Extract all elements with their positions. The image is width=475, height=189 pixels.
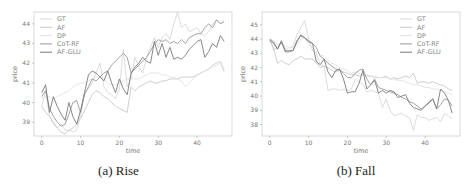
legend-label: GT	[417, 15, 426, 23]
x-tick-label: 10	[77, 139, 85, 146]
legend-label: DP	[57, 32, 66, 40]
line-chart-fall: 0102030403839404142434445timepriceGTAFDP…	[237, 0, 475, 160]
y-tick-label: 43	[250, 49, 258, 56]
x-tick-label: 30	[154, 139, 162, 146]
y-tick-label: 45	[250, 21, 258, 28]
y-tick-label: 44	[22, 20, 30, 27]
x-tick-label: 40	[421, 139, 429, 146]
y-tick-label: 42	[250, 64, 258, 71]
legend-label: AF	[57, 24, 65, 32]
x-tick-label: 40	[193, 139, 201, 146]
chart-panel-rise: 010203040394041424344timepriceGTAFDPCoT-…	[0, 0, 237, 189]
x-tick-label: 20	[344, 139, 352, 146]
caption-fall: (b) Fall	[237, 163, 475, 179]
legend-label: DP	[417, 32, 426, 40]
legend-label: CoT-RF	[57, 40, 80, 48]
legend-label: CoT-RF	[417, 40, 440, 48]
legend-label: GT	[57, 15, 66, 23]
y-tick-label: 41	[250, 78, 258, 85]
x-tick-label: 0	[40, 139, 44, 146]
y-tick-label: 39	[250, 106, 258, 113]
x-tick-label: 30	[382, 139, 390, 146]
x-axis-label: time	[126, 147, 141, 155]
y-axis-label: price	[11, 66, 19, 82]
x-tick-label: 0	[268, 139, 272, 146]
y-tick-label: 44	[250, 35, 258, 42]
series-line-cot-rf	[42, 20, 224, 126]
y-tick-label: 39	[22, 118, 30, 125]
y-tick-label: 40	[250, 92, 258, 99]
series-line-af	[42, 61, 224, 134]
x-tick-label: 20	[116, 139, 124, 146]
legend-label: AF	[417, 24, 425, 32]
legend-label: AF-GLU	[417, 48, 441, 56]
y-tick-label: 38	[250, 121, 258, 128]
y-tick-label: 42	[22, 59, 30, 66]
x-tick-label: 10	[305, 139, 313, 146]
y-tick-label: 43	[22, 39, 30, 46]
y-tick-label: 40	[22, 99, 30, 106]
x-axis-label: time	[354, 147, 369, 155]
legend-label: AF-GLU	[57, 48, 81, 56]
y-tick-label: 41	[22, 79, 30, 86]
line-chart-rise: 010203040394041424344timepriceGTAFDPCoT-…	[0, 0, 237, 160]
caption-rise: (a) Rise	[0, 163, 237, 179]
chart-panel-fall: 0102030403839404142434445timepriceGTAFDP…	[237, 0, 475, 189]
y-axis-label: price	[239, 66, 247, 82]
